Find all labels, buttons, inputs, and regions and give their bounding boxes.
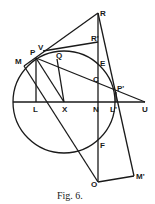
label-C: C [93, 75, 99, 84]
label-P: P [30, 48, 36, 57]
label-M1: M' [136, 172, 145, 181]
label-U: U [142, 105, 148, 114]
label-V: V [38, 43, 44, 52]
label-F: F [100, 141, 105, 150]
label-Q: Q [56, 51, 62, 60]
label-X: X [62, 105, 68, 114]
label-L1: L' [110, 105, 117, 114]
label-P1: P' [117, 84, 124, 93]
line-p-u [36, 58, 145, 102]
label-R1: R' [91, 34, 99, 43]
figure-caption: Fig. 6. [57, 190, 83, 201]
geometry-figure: R R' V P M Q E C P' N L X L' U F O M' Fi… [0, 0, 155, 204]
label-O: O [91, 180, 97, 189]
line-o-m1 [98, 176, 134, 182]
label-L: L [33, 105, 38, 114]
label-R: R [100, 9, 106, 18]
label-N: N [93, 105, 99, 114]
label-M: M [15, 57, 22, 66]
label-E: E [100, 59, 106, 68]
